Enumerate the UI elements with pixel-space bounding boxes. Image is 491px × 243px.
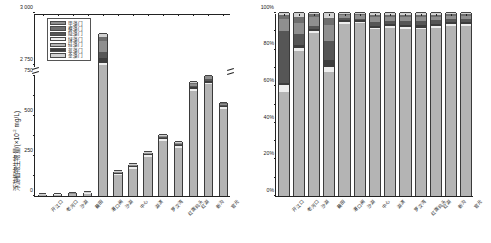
- panel-a-xtick-label: 罗汉湾: [171, 199, 185, 213]
- panel-a-bar: [98, 34, 107, 196]
- panel-a-segment: [39, 193, 46, 195]
- panel-b-segment: [279, 18, 289, 32]
- panel-b-segment: [294, 22, 304, 34]
- panel-a-segment: [205, 75, 212, 77]
- panel-a-segment: [220, 109, 227, 196]
- panel-b-yminor-4: [274, 30, 276, 31]
- panel-b-ytickmark-1: [274, 158, 277, 159]
- panel-b-segment: [355, 23, 365, 196]
- panel-b-ytick-5: 100%: [261, 5, 274, 10]
- panel-b-segment: [294, 33, 304, 45]
- panel-b-xtickmark-8: [405, 14, 406, 16]
- legend-swatch: [50, 48, 66, 52]
- panel-a-segment: [144, 157, 151, 196]
- panel-b-bar: [369, 13, 381, 196]
- panel-b-segment: [324, 40, 334, 59]
- panel-a-segment: [190, 81, 197, 83]
- panel-b-yminor-0: [274, 177, 276, 178]
- legend-item: 隐藻门: [50, 31, 88, 36]
- legend-swatch: [50, 32, 66, 36]
- panel-b-xtick-label: 沙湖: [366, 199, 377, 210]
- panel-b-segment: [309, 16, 319, 26]
- panel-a-segment: [114, 170, 121, 172]
- legend-label: 蓝藻门: [68, 48, 83, 53]
- panel-a-segment: [129, 163, 136, 165]
- panel-a-xtick-label: 沙湖: [79, 199, 90, 210]
- panel-a-yminor-0: [33, 175, 35, 176]
- panel-a-segment: [175, 148, 182, 196]
- panel-a-ytickmark-3: [33, 75, 36, 76]
- panel-a-xtick-label: 老河口: [65, 199, 79, 213]
- panel-b-segment: [431, 28, 441, 196]
- panel-b-ytick-4: 80%: [264, 42, 274, 47]
- panel-b-bar: [338, 13, 350, 196]
- panel-b-xtick-label: 新沟: [457, 199, 468, 210]
- panel-b-segment: [309, 33, 319, 196]
- panel-b-segment: [279, 30, 289, 82]
- panel-a-bar: [68, 193, 77, 196]
- panel-b-segment: [294, 51, 304, 196]
- panel-a-segment: [220, 102, 227, 104]
- panel-b-xtickmark-5: [360, 14, 361, 16]
- panel-b-xtick-label: 沙湖: [320, 199, 331, 210]
- legend-swatch: [50, 37, 66, 41]
- panel-a-bar: [38, 195, 47, 196]
- panel-b-plot-area: 0%20%40%60%80%100%开江口老河口沙湖藕田港口闸沙湖中心湖滨罗汉湾…: [275, 14, 473, 197]
- panel-b-ytickmark-0: [274, 195, 277, 196]
- panel-b-composition: 0%20%40%60%80%100%开江口老河口沙湖藕田港口闸沙湖中心湖滨罗汉湾…: [245, 0, 491, 243]
- panel-a-ytickmark-4: [33, 64, 36, 65]
- panel-b-xtick-label: 开江口: [291, 199, 305, 213]
- panel-b-xtick-label: 中心: [381, 199, 392, 210]
- panel-b-xtickmark-0: [284, 14, 285, 16]
- panel-b-bar: [384, 13, 396, 196]
- panel-b-segment: [339, 24, 349, 196]
- panel-b-xtick-label: 港口闸: [352, 199, 366, 213]
- legend-label: 金藻门: [68, 53, 83, 58]
- panel-b-yminor-2: [274, 104, 276, 105]
- legend-swatch: [50, 26, 66, 30]
- panel-b-xtickmark-2: [314, 14, 315, 16]
- panel-a-segment: [99, 51, 106, 58]
- panel-b-xtickmark-4: [345, 14, 346, 16]
- figure-root: 02505007502 7503 000开江口老河口沙湖藕田港口闸沙湖中心湖滨罗…: [0, 0, 491, 243]
- panel-a-xtick-label: 沙湖: [124, 199, 135, 210]
- panel-b-segment: [446, 26, 456, 196]
- panel-a-ytick-0: 0: [30, 188, 33, 193]
- panel-b-xtickmark-9: [421, 14, 422, 16]
- panel-a-bar: [113, 172, 122, 196]
- panel-a-segment: [69, 194, 76, 196]
- panel-a-ytickmark-0: [33, 195, 36, 196]
- panel-b-xtick-label: 湖滨: [396, 199, 407, 210]
- panel-a-ytick-4: 2 750: [20, 57, 33, 62]
- legend-item: 硅藻门: [50, 42, 88, 47]
- panel-a-bar: [83, 193, 92, 196]
- panel-a-segment: [84, 191, 91, 193]
- panel-a-plot-area: 02505007502 7503 000开江口老河口沙湖藕田港口闸沙湖中心湖滨罗…: [34, 14, 230, 197]
- panel-a-segment: [84, 194, 91, 196]
- panel-b-xtickmark-1: [299, 14, 300, 16]
- panel-a-ytickmark-5: [33, 12, 36, 13]
- panel-b-segment: [370, 29, 380, 196]
- panel-b-segment: [324, 24, 334, 41]
- panel-b-bar: [293, 13, 305, 196]
- legend: 甲藻门裸藻门隐藻门绿藻门硅藻门蓝藻门金藻门: [47, 18, 91, 61]
- panel-b-bar: [445, 13, 457, 196]
- panel-b-segment: [294, 16, 304, 23]
- panel-b-bar: [460, 13, 472, 196]
- panel-a-ytick-5: 3 000: [20, 5, 33, 10]
- panel-a-segment: [54, 193, 61, 195]
- panel-a-bar: [204, 76, 213, 196]
- panel-a-bar: [174, 142, 183, 196]
- panel-b-ytickmark-5: [274, 12, 277, 13]
- panel-a-bar: [189, 82, 198, 196]
- panel-a-segment: [159, 134, 166, 136]
- panel-b-bar: [323, 13, 335, 196]
- panel-b-xtick-label: 老河口: [306, 199, 320, 213]
- panel-b-ytickmark-4: [274, 49, 277, 50]
- panel-b-bar: [308, 13, 320, 196]
- panel-a-segment: [205, 84, 212, 196]
- panel-b-segment: [385, 28, 395, 196]
- panel-a-bar: [128, 165, 137, 196]
- panel-a-ytickmark-1: [33, 155, 36, 156]
- panel-b-segment: [279, 84, 289, 91]
